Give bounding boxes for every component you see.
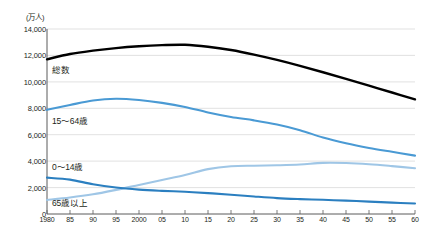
series-line-15-64	[47, 99, 415, 156]
x-tick-2015: 15	[204, 216, 212, 223]
x-tick-2000: 2000	[131, 216, 146, 223]
x-tick-2045: 45	[342, 216, 350, 223]
x-tick-1995: 95	[112, 216, 120, 223]
x-tick-2040: 40	[319, 216, 327, 223]
x-axis-ticks	[47, 210, 415, 214]
population-projection-chart: (万人) 0 2,000 4,000 6,000 8,000 10,000 12…	[0, 0, 426, 233]
x-tick-2055: 55	[388, 216, 396, 223]
series-line-0-14	[47, 178, 415, 204]
series-label-15-64: 15～64歳	[52, 114, 88, 126]
series-line-total	[47, 45, 415, 100]
x-tick-2020: 20	[227, 216, 235, 223]
series-label-0-14: 0～14歳	[52, 160, 83, 172]
series-label-total: 総数	[52, 63, 70, 75]
x-tick-2025: 25	[250, 216, 258, 223]
x-tick-2035: 35	[296, 216, 304, 223]
x-tick-1980: 1980	[39, 216, 54, 223]
series-label-65-and-over: 65歳以上	[52, 196, 87, 208]
x-tick-2010: 10	[181, 216, 189, 223]
x-tick-1985: 85	[66, 216, 74, 223]
x-tick-1990: 90	[89, 216, 97, 223]
x-tick-2030: 30	[273, 216, 281, 223]
x-tick-2005: 05	[158, 216, 166, 223]
x-tick-2050: 50	[365, 216, 373, 223]
series-lines	[47, 45, 415, 204]
x-tick-2060: 60	[411, 216, 419, 223]
